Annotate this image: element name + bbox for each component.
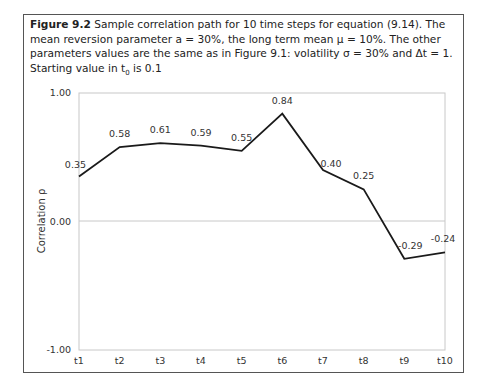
x-tick-label: t9 <box>399 355 409 366</box>
data-label: 0.84 <box>272 95 293 106</box>
data-label: 0.61 <box>150 124 171 135</box>
x-tick-label: t4 <box>196 355 206 366</box>
data-label: 0.40 <box>320 158 341 169</box>
x-tick-label: t10 <box>437 355 453 366</box>
data-label: 0.35 <box>65 159 86 170</box>
line-chart: 1.000.00-1.00 t1t2t3t4t5t6t7t8t9t10 Corr… <box>0 0 488 392</box>
x-tick-label: t7 <box>318 355 328 366</box>
data-label: 0.59 <box>190 127 211 138</box>
data-labels: 0.350.580.610.590.550.840.400.25-0.29-0.… <box>65 95 455 251</box>
x-tick-label: t3 <box>155 355 165 366</box>
data-label: 0.55 <box>231 132 252 143</box>
x-axis-ticks: t1t2t3t4t5t6t7t8t9t10 <box>74 355 453 366</box>
y-tick-label: -1.00 <box>46 344 71 355</box>
correlation-line <box>79 114 445 259</box>
x-tick-label: t1 <box>74 355 84 366</box>
data-label: 0.25 <box>353 170 374 181</box>
data-label: 0.58 <box>109 128 130 139</box>
y-tick-label: 1.00 <box>50 87 71 98</box>
y-axis-label: Correlation ρ <box>36 189 47 254</box>
y-tick-label: 0.00 <box>50 216 71 227</box>
y-axis-ticks: 1.000.00-1.00 <box>46 87 71 355</box>
x-tick-label: t6 <box>277 355 287 366</box>
x-tick-label: t8 <box>359 355 369 366</box>
x-tick-label: t2 <box>115 355 125 366</box>
x-tick-label: t5 <box>237 355 247 366</box>
data-label: -0.24 <box>431 233 456 244</box>
data-label: -0.29 <box>398 240 423 251</box>
